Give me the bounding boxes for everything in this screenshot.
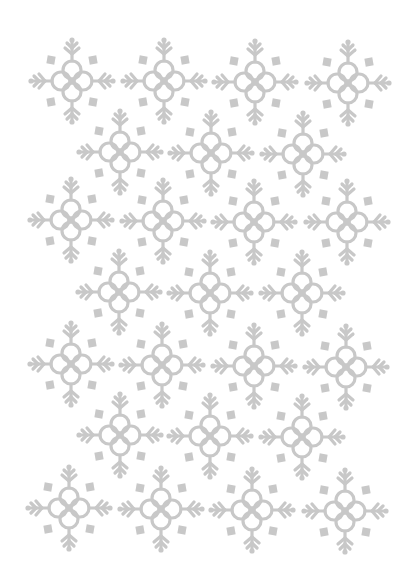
snowflake-icon <box>115 463 207 555</box>
snowflake-icon <box>23 462 115 554</box>
snowflake-icon <box>299 465 391 557</box>
snowflake-icon <box>206 464 298 556</box>
